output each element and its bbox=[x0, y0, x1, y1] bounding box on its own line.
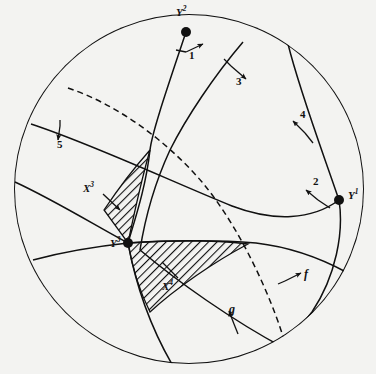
arrow-label-1: 1 bbox=[189, 50, 195, 61]
arrow-label-4: 4 bbox=[300, 109, 306, 120]
arrow-label-3: 3 bbox=[236, 76, 242, 87]
point-label-y3: Y3 bbox=[110, 238, 120, 249]
region-label-x4: X4 bbox=[162, 281, 173, 292]
point-label-y2: Y2 bbox=[176, 7, 186, 18]
spherical-diagram-figure: Y2 Y1 Y3 X3 X4 1 2 3 4 5 f g bbox=[0, 0, 376, 374]
point-y2-dot bbox=[181, 27, 191, 37]
arrow-label-f: f bbox=[304, 268, 308, 280]
point-y3-dot bbox=[123, 238, 133, 248]
diagram-canvas bbox=[0, 0, 376, 374]
region-label-x3: X3 bbox=[83, 183, 94, 194]
arrow-label-5: 5 bbox=[57, 139, 63, 150]
point-label-y1: Y1 bbox=[348, 190, 358, 201]
arrow-label-2: 2 bbox=[313, 176, 319, 187]
point-y1-dot bbox=[334, 195, 344, 205]
arrow-label-g: g bbox=[229, 303, 235, 315]
